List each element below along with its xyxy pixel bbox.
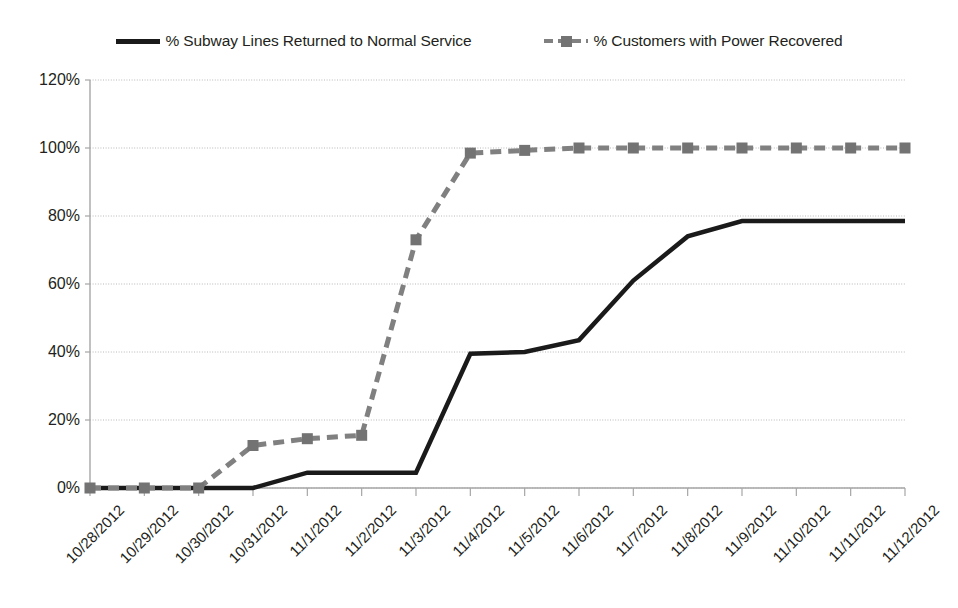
- chart-series-layer: [85, 143, 911, 494]
- series-line-power: [90, 148, 905, 488]
- series-marker-power: [628, 143, 639, 154]
- series-marker-power: [302, 433, 313, 444]
- series-marker-power: [845, 143, 856, 154]
- series-marker-power: [85, 483, 96, 494]
- horizontal-gridlines: [90, 80, 905, 488]
- series-marker-power: [737, 143, 748, 154]
- series-marker-power: [193, 483, 204, 494]
- y-axis-tick-label: 80%: [6, 208, 80, 224]
- series-marker-power: [791, 143, 802, 154]
- chart-canvas: [0, 0, 958, 608]
- y-axis-tick-label: 100%: [6, 140, 80, 156]
- series-line-subway: [90, 221, 905, 488]
- y-axis-tick-label: 40%: [6, 344, 80, 360]
- series-marker-power: [411, 234, 422, 245]
- series-marker-power: [248, 440, 259, 451]
- series-marker-power: [465, 148, 476, 159]
- y-axis-tick-label: 60%: [6, 276, 80, 292]
- series-marker-power: [519, 145, 530, 156]
- series-marker-power: [356, 430, 367, 441]
- y-axis-tick-label: 20%: [6, 412, 80, 428]
- series-marker-power: [900, 143, 911, 154]
- chart-plot-area: 0%20%40%60%80%100%120% 10/28/201210/29/2…: [0, 0, 958, 608]
- series-marker-power: [139, 483, 150, 494]
- series-marker-power: [682, 143, 693, 154]
- y-axis-tick-labels: 0%20%40%60%80%100%120%: [0, 0, 80, 608]
- y-axis-tick-label: 120%: [6, 72, 80, 88]
- y-axis-tick-label: 0%: [6, 480, 80, 496]
- series-marker-power: [574, 143, 585, 154]
